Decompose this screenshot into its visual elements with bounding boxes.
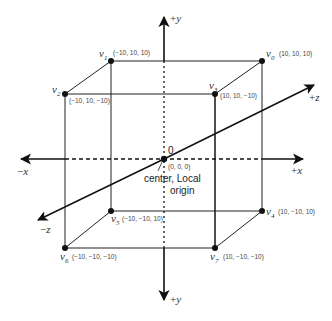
- axis-label-x-negative: −x: [17, 165, 28, 177]
- edge-v0-v3: [215, 61, 262, 94]
- vertex-v3-coord: (10, 10, −10): [220, 92, 257, 100]
- vertex-label-v0: v0 (10, 10, 10): [266, 47, 312, 62]
- origin-caption-leader: [158, 162, 162, 171]
- axis-label-x-positive: +x: [291, 164, 302, 176]
- vertex-v2-dot: [62, 91, 68, 97]
- vertex-v0-dot: [259, 58, 265, 64]
- origin-coordinate: (0, 0, 0): [168, 163, 190, 171]
- vertex-v1-coord: (−10, 10, 10): [113, 49, 150, 57]
- z-axis: [38, 85, 314, 220]
- axis-label-y-positive: +y: [170, 12, 181, 24]
- svg-text:v4: v4: [266, 205, 275, 220]
- vertex-v4-dot: [259, 208, 265, 214]
- svg-text:v5: v5: [111, 212, 120, 227]
- diagram-canvas: +y +y −x +x +z −z 0 (0, 0, 0) center, Lo…: [0, 0, 332, 321]
- cube-depth-edges: [65, 61, 262, 248]
- axis-label-z-negative: −z: [40, 223, 51, 235]
- edge-v5-v6: [65, 211, 111, 248]
- svg-text:v3: v3: [209, 79, 218, 94]
- svg-text:v0: v0: [266, 47, 275, 62]
- edge-v4-v7: [215, 211, 262, 248]
- vertex-label-v7: v7 (10, −10, −10): [210, 250, 264, 265]
- edge-v1-v2: [65, 61, 111, 94]
- origin-point: [161, 156, 167, 162]
- vertex-label-v4: v4 (10, −10, 10): [266, 205, 315, 220]
- vertex-v5-coord: (−10, −10, 10): [122, 215, 163, 223]
- cube-coordinate-diagram: +y +y −x +x +z −z 0 (0, 0, 0) center, Lo…: [0, 0, 332, 321]
- axis-label-y-bottom: +y: [170, 293, 181, 305]
- vertex-label-v3: v3 (10, 10, −10): [209, 79, 257, 100]
- svg-text:v2: v2: [52, 83, 61, 98]
- vertex-v6-coord: (−10, −10, −10): [72, 253, 117, 261]
- vertex-label-v5: v5 (−10, −10, 10): [111, 212, 163, 227]
- svg-text:v1: v1: [99, 47, 107, 62]
- origin-caption-line1: center, Local: [144, 173, 201, 184]
- vertex-label-v1: v1 (−10, 10, 10): [99, 47, 150, 62]
- vertex-v2-coord: (−10, 10, −10): [69, 97, 110, 105]
- origin-zero-label: 0: [168, 145, 174, 156]
- origin-caption-line2: origin: [170, 185, 194, 196]
- vertex-v1-dot: [108, 58, 114, 64]
- vertex-v0-coord: (10, 10, 10): [279, 50, 312, 58]
- svg-text:v7: v7: [210, 250, 219, 265]
- axis-label-z-positive: +z: [309, 91, 320, 103]
- vertex-v4-coord: (10, −10, 10): [278, 208, 315, 216]
- vertex-v7-coord: (10, −10, −10): [223, 253, 264, 261]
- vertex-label-v6: v6 (−10, −10, −10): [60, 250, 117, 265]
- svg-text:v6: v6: [60, 250, 69, 265]
